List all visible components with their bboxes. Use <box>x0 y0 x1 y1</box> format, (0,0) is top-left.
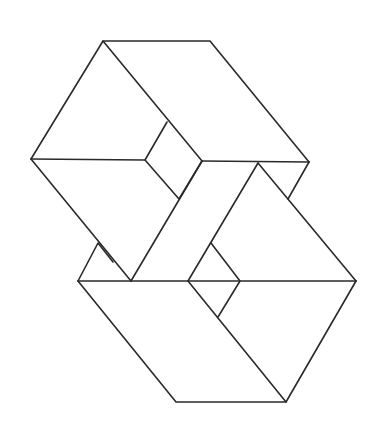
lower-box <box>78 163 356 402</box>
upper-box <box>31 41 309 281</box>
interlocking-boxes-drawing <box>0 0 381 430</box>
